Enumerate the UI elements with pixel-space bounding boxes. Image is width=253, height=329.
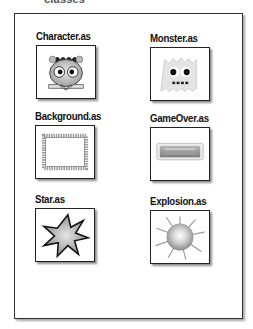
class-file-character[interactable]: Character.as xyxy=(36,30,100,99)
class-file-label: Explosion.as xyxy=(150,195,209,207)
class-file-monster[interactable]: Monster.as xyxy=(150,32,214,101)
class-file-label: Character.as xyxy=(36,30,95,42)
background-thumbnail[interactable] xyxy=(35,125,95,179)
gameover-icon xyxy=(151,128,209,180)
class-file-label: Monster.as xyxy=(150,32,209,44)
class-file-star[interactable]: Star.as xyxy=(35,193,99,262)
class-file-background[interactable]: Background.as xyxy=(35,110,99,179)
class-file-label: GameOver.as xyxy=(150,112,209,124)
star-thumbnail[interactable] xyxy=(35,208,95,262)
gameover-thumbnail[interactable] xyxy=(150,127,210,181)
star-icon xyxy=(36,209,94,261)
background-icon xyxy=(36,126,94,178)
monster-icon xyxy=(151,48,209,100)
explosion-icon xyxy=(151,211,209,263)
explosion-thumbnail[interactable] xyxy=(150,210,210,264)
monster-thumbnail[interactable] xyxy=(150,47,210,101)
character-thumbnail[interactable] xyxy=(36,45,96,99)
class-file-explosion[interactable]: Explosion.as xyxy=(150,195,214,264)
character-icon xyxy=(37,46,95,98)
class-file-label: Star.as xyxy=(35,193,94,205)
page-title-cut: classes xyxy=(44,0,85,5)
class-file-gameover[interactable]: GameOver.as xyxy=(150,112,214,181)
class-file-label: Background.as xyxy=(35,110,94,122)
